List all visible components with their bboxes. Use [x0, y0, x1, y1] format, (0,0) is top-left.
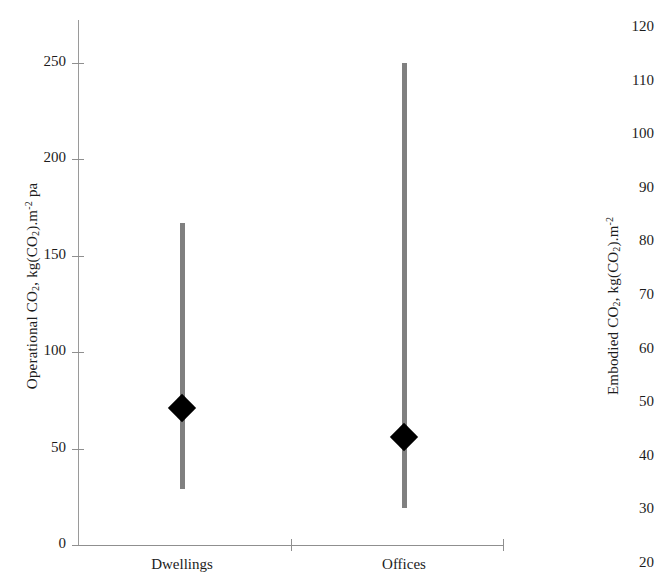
- range-bar-dwellings: [180, 223, 185, 489]
- median-marker-dwellings: [168, 394, 196, 422]
- median-marker-offices: [390, 423, 418, 451]
- right-axis-tick-label: 80: [620, 232, 654, 249]
- right-axis-tick-label: 70: [620, 286, 654, 303]
- y-tick-label: 100: [8, 342, 66, 359]
- y-axis-line: [78, 20, 79, 546]
- left-axis-title-suffix: pa: [24, 183, 40, 202]
- y-tick-mark: [72, 449, 84, 450]
- x-axis-line: [72, 545, 504, 546]
- right-axis-tick-label: 50: [620, 393, 654, 410]
- left-axis-title-prefix: Operational CO: [24, 291, 40, 389]
- y-tick-label: 200: [8, 149, 66, 166]
- y-tick-label: 250: [8, 53, 66, 70]
- right-axis-tick-label: 110: [620, 72, 654, 89]
- left-axis-title-sub2: 2: [30, 231, 41, 236]
- right-axis-tick-label: 40: [620, 447, 654, 464]
- y-tick-mark: [72, 545, 84, 546]
- right-axis-title-mid2: ).m: [605, 225, 621, 246]
- y-tick-mark: [72, 352, 84, 353]
- x-tick-mark: [291, 539, 292, 551]
- y-tick-label: 0: [8, 535, 66, 552]
- y-tick-label: 150: [8, 246, 66, 263]
- right-axis-title: Embodied CO2, kg(CO2).m-2: [604, 156, 622, 456]
- right-axis-title-mid: , kg(CO: [605, 252, 621, 302]
- x-category-label: Dwellings: [92, 556, 272, 573]
- y-tick-mark: [72, 159, 84, 160]
- right-axis-tick-label: 120: [620, 18, 654, 35]
- right-axis-tick-label: 20: [620, 554, 654, 571]
- right-axis-title-sup: -2: [604, 217, 615, 226]
- x-category-label: Offices: [314, 556, 494, 573]
- right-axis-title-prefix: Embodied CO: [605, 307, 621, 395]
- left-axis-title-mid2: ).m: [24, 210, 40, 231]
- y-tick-mark: [72, 63, 84, 64]
- right-axis-tick-label: 100: [620, 125, 654, 142]
- right-axis-tick-label: 30: [620, 500, 654, 517]
- chart-canvas: Operational CO2, kg(CO2).m-2 pa Embodied…: [0, 0, 657, 587]
- left-axis-title: Operational CO2, kg(CO2).m-2 pa: [23, 136, 41, 436]
- y-tick-label: 50: [8, 439, 66, 456]
- right-axis-tick-label: 60: [620, 340, 654, 357]
- y-tick-mark: [72, 256, 84, 257]
- left-axis-title-sub1: 2: [30, 286, 41, 291]
- left-axis-title-sup: -2: [23, 201, 34, 210]
- right-axis-tick-label: 90: [620, 179, 654, 196]
- x-tick-mark: [503, 539, 504, 551]
